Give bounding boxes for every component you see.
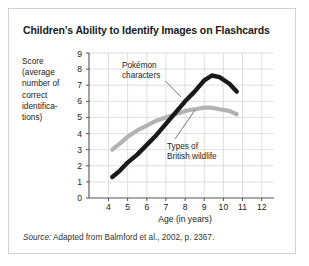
x-tick-label: 4: [106, 202, 111, 212]
x-tick-label: 6: [144, 202, 149, 212]
x-tick-label: 11: [238, 202, 247, 212]
figure-card: Children’s Ability to Identify Images on…: [8, 8, 296, 254]
y-tick-label: 7: [77, 80, 82, 90]
x-tick-labels: 4 5 6 7 8 9 10 11 12: [106, 202, 267, 212]
x-tick-label: 7: [164, 202, 169, 212]
annotation-pokemon: Pokémon characters: [122, 61, 160, 82]
y-tick-label: 1: [77, 177, 82, 187]
x-axis-label: Age (in years): [105, 214, 265, 224]
x-tick-label: 12: [257, 202, 267, 212]
y-tick-label: 3: [77, 145, 82, 155]
y-tick-label: 8: [77, 64, 82, 74]
y-tick-label: 5: [77, 112, 82, 122]
x-tick-label: 8: [183, 202, 188, 212]
source-keyword: Source:: [23, 233, 51, 242]
x-tick-label: 10: [219, 202, 229, 212]
source-text: Adapted from Balmford et al., 2002, p. 2…: [53, 233, 214, 242]
annotation-wildlife: Types of British wildlife: [167, 142, 217, 163]
y-tick-label: 6: [77, 96, 82, 106]
source-note: Source: Adapted from Balmford et al., 20…: [23, 233, 289, 242]
leader-line-pokemon: [166, 81, 182, 97]
y-tick-label: 0: [77, 193, 82, 203]
y-tick-label: 4: [77, 129, 82, 139]
y-tick-labels: 0 1 2 3 4 5 6 7 8 9: [77, 49, 82, 204]
x-tick-label: 9: [202, 202, 207, 212]
y-tick-label: 9: [77, 49, 82, 59]
x-tick-label: 5: [125, 202, 130, 212]
y-tick-label: 2: [77, 161, 82, 171]
